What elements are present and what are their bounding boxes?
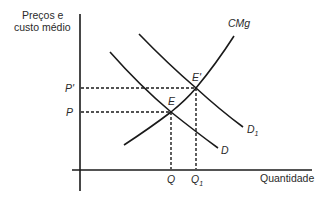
- q1-label-main: Q: [191, 173, 199, 185]
- price-p-label: P: [66, 106, 73, 118]
- x-axis-label: Quantidade: [260, 172, 314, 184]
- price-p-prime-label: P': [65, 82, 75, 94]
- y-axis-label-line1: Preços e: [22, 9, 64, 21]
- equilibrium-e-prime-label: E': [192, 71, 202, 83]
- quantity-q-label: Q: [167, 173, 175, 185]
- equilibrium-e-label: E: [168, 95, 176, 107]
- marginal-cost-curve: [124, 36, 234, 145]
- d-label: D: [221, 144, 229, 156]
- d1-label: D1: [247, 123, 259, 137]
- demand-curve-d: [110, 52, 218, 148]
- cmg-label: CMg: [228, 17, 250, 29]
- supply-demand-diagram: Preços e custo médio Quantidade CMg D D1…: [0, 0, 329, 205]
- demand-curve-d1: [139, 34, 243, 127]
- q1-label-subscript: 1: [199, 180, 203, 187]
- d1-label-subscript: 1: [255, 130, 259, 137]
- quantity-q1-label: Q1: [191, 173, 203, 187]
- y-axis-label-line2: custo médio: [14, 21, 71, 33]
